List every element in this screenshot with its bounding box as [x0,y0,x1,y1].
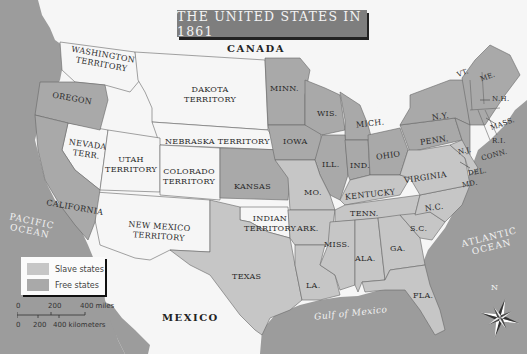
map-title: THE UNITED STATES IN 1861 [177,9,367,39]
label-mississippi: MISS. [324,240,350,250]
label-mexico: MEXICO [162,313,219,323]
label-dakota: DAKOTATERRITORY [184,85,236,105]
label-rhode-island: R.I. [492,137,506,145]
compass-rose-icon [478,296,522,340]
label-canada: CANADA [227,44,285,54]
scale-bar-lines [17,312,97,320]
label-nebraska: NEBRASKA TERRITORY [165,137,270,147]
label-indian-territory: INDIANTERRITORY [244,214,296,234]
label-iowa: IOWA [283,137,308,147]
legend-item-slave-states: Slave states [27,263,104,275]
map-title-banner: THE UNITED STATES IN 1861 [177,10,367,37]
label-missouri: MO. [304,188,322,198]
map-legend: Slave states Free states [21,257,105,295]
label-tennessee: TENN. [350,209,379,219]
label-south-carolina: S.C. [410,224,427,234]
label-arkansas: ARK. [297,224,319,234]
map: THE UNITED STATES IN 1861 CANADA MEXICO … [0,0,527,354]
label-kansas: KANSAS [234,182,271,192]
free-states-swatch [27,279,49,291]
label-indiana: IND. [350,161,370,171]
label-new-mexico: NEW MEXICOTERRITORY [127,220,190,244]
label-louisiana: LA. [306,281,321,291]
legend-item-free-states: Free states [27,279,99,291]
label-alabama: ALA. [355,254,376,264]
label-new-hampshire: N.H. [492,95,509,103]
label-colorado: COLORADOTERRITORY [163,167,215,187]
compass-north-label: N [491,283,498,292]
label-wisconsin: WIS. [317,109,337,119]
slave-states-swatch [27,263,49,275]
label-florida: FLA. [413,291,433,301]
indiana [345,140,370,180]
scale-bar: 0 200 400 miles 0 200 400 kilometers [14,302,124,342]
label-texas: TEXAS [232,272,261,282]
label-illinois: ILL. [322,160,340,170]
label-minnesota: MINN. [270,84,299,94]
label-utah: UTAHTERRITORY [105,155,157,175]
label-georgia: GA. [390,244,406,254]
